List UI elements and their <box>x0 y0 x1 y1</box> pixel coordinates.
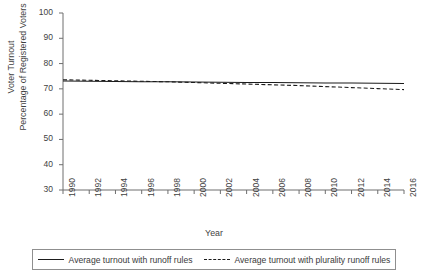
legend-label-plurality-runoff: Average turnout with plurality runoff ru… <box>235 255 391 265</box>
legend-item-plurality-runoff: Average turnout with plurality runoff ru… <box>204 255 391 265</box>
x-tick-label: 2006 <box>277 178 287 197</box>
legend-label-runoff: Average turnout with runoff rules <box>69 255 193 265</box>
chart-figure: Voter Turnout Percentage of Registered V… <box>0 0 428 277</box>
x-tick-label: 1996 <box>146 178 156 197</box>
y-tick-label: 70 <box>27 83 53 93</box>
y-tick-label: 30 <box>27 184 53 194</box>
y-tick-label: 60 <box>27 108 53 118</box>
y-tick-marks <box>59 13 63 190</box>
y-tick-label: 80 <box>27 58 53 68</box>
x-tick-label: 2008 <box>303 178 313 197</box>
legend-item-runoff: Average turnout with runoff rules <box>38 255 193 265</box>
series-line-runoff <box>63 81 404 84</box>
x-tick-label: 1998 <box>172 178 182 197</box>
y-tick-label: 100 <box>27 7 53 17</box>
x-tick-label: 1992 <box>93 178 103 197</box>
x-tick-label: 1990 <box>67 178 77 197</box>
x-tick-label: 2002 <box>224 178 234 197</box>
y-tick-label: 50 <box>27 133 53 143</box>
y-tick-label: 90 <box>27 32 53 42</box>
legend-swatch-dashed-icon <box>204 259 230 260</box>
legend-swatch-solid-icon <box>38 259 64 260</box>
x-tick-label: 2014 <box>382 178 392 197</box>
x-tick-label: 2012 <box>356 178 366 197</box>
x-tick-label: 2016 <box>408 178 418 197</box>
x-tick-label: 2004 <box>251 178 261 197</box>
y-tick-label: 40 <box>27 159 53 169</box>
x-tick-label: 2000 <box>198 178 208 197</box>
chart-legend: Average turnout with runoff rules Averag… <box>32 249 396 270</box>
x-tick-label: 2010 <box>329 178 339 197</box>
x-axis-title: Year <box>0 228 428 238</box>
x-tick-label: 1994 <box>119 178 129 197</box>
